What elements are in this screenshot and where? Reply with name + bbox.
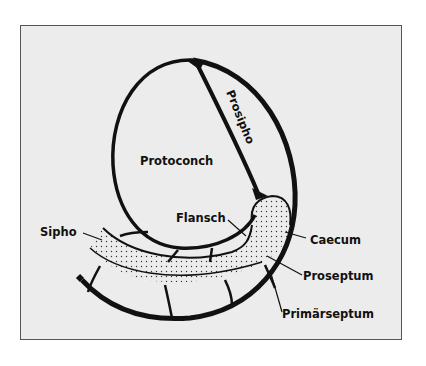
label-sipho: Sipho	[40, 225, 77, 239]
label-protoconch: Protoconch	[140, 154, 213, 168]
ammonite-protoconch-diagram: Protoconch Prosipho Flansch Sipho Caecum…	[0, 0, 426, 366]
label-caecum: Caecum	[310, 233, 361, 247]
label-primaerseptum: Primärseptum	[282, 307, 374, 321]
label-prosipho: Prosipho	[223, 88, 257, 146]
label-proseptum: Proseptum	[303, 269, 374, 283]
siphuncle-stipple	[90, 196, 290, 282]
label-flansch: Flansch	[176, 211, 226, 225]
